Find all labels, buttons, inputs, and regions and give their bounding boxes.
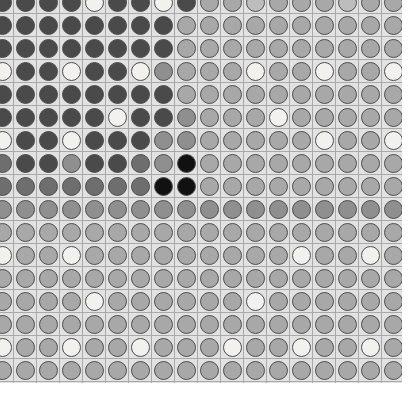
grid-dot <box>223 246 242 265</box>
grid-cell <box>313 14 336 37</box>
grid-cell <box>175 175 198 198</box>
grid-cell <box>244 244 267 267</box>
grid-dot <box>39 292 58 311</box>
grid-dot <box>0 177 12 196</box>
grid-dot <box>269 338 288 357</box>
grid-dot <box>0 361 12 380</box>
grid-cell <box>129 83 152 106</box>
grid-cell <box>60 0 83 14</box>
grid-cell <box>244 0 267 14</box>
grid-cell <box>267 175 290 198</box>
grid-cell <box>221 37 244 60</box>
grid-cell <box>83 198 106 221</box>
grid-dot <box>62 85 81 104</box>
grid-cell <box>37 0 60 14</box>
grid-cell <box>198 60 221 83</box>
grid-cell <box>60 14 83 37</box>
grid-dot <box>0 16 12 35</box>
grid-dot <box>338 246 357 265</box>
grid-dot <box>131 177 150 196</box>
grid-cell <box>359 244 382 267</box>
grid-cell <box>60 336 83 359</box>
grid-cell <box>290 290 313 313</box>
grid-cell <box>267 336 290 359</box>
grid-dot <box>315 315 334 334</box>
grid-dot <box>200 200 219 219</box>
grid-cell <box>267 290 290 313</box>
grid-cell <box>0 267 14 290</box>
grid-dot <box>16 39 35 58</box>
grid-cell <box>382 129 402 152</box>
grid-cell <box>129 106 152 129</box>
grid-dot <box>338 62 357 81</box>
grid-cell <box>14 37 37 60</box>
grid-cell <box>359 175 382 198</box>
grid-cell <box>198 83 221 106</box>
grid-dot <box>39 269 58 288</box>
grid-cell <box>0 83 14 106</box>
grid-cell <box>221 198 244 221</box>
grid-dot <box>16 246 35 265</box>
grid-dot <box>39 108 58 127</box>
grid-cell <box>382 60 402 83</box>
grid-cell <box>37 37 60 60</box>
grid-dot <box>361 85 380 104</box>
grid-cell <box>60 221 83 244</box>
grid-dot <box>223 16 242 35</box>
grid-dot <box>108 177 127 196</box>
grid-dot <box>62 269 81 288</box>
grid-cell <box>359 221 382 244</box>
grid-cell <box>290 336 313 359</box>
grid-dot <box>0 315 12 334</box>
grid-dot <box>269 315 288 334</box>
grid-dot <box>292 177 311 196</box>
grid-cell <box>267 313 290 336</box>
grid-dot <box>62 200 81 219</box>
grid-cell <box>267 359 290 382</box>
grid-dot <box>62 39 81 58</box>
grid-cell <box>290 60 313 83</box>
grid-dot <box>154 200 173 219</box>
grid-cell <box>60 313 83 336</box>
grid-cell <box>198 244 221 267</box>
grid-cell <box>14 221 37 244</box>
grid-cell <box>313 60 336 83</box>
grid-cell <box>175 60 198 83</box>
grid-cell <box>336 83 359 106</box>
grid-cell <box>14 83 37 106</box>
grid-cell <box>0 313 14 336</box>
grid-cell <box>336 37 359 60</box>
grid-dot <box>223 131 242 150</box>
grid-cell <box>198 382 221 383</box>
grid-cell <box>14 14 37 37</box>
grid-dot <box>338 200 357 219</box>
grid-dot <box>361 269 380 288</box>
grid-cell <box>37 152 60 175</box>
grid-cell <box>336 267 359 290</box>
grid-cell <box>244 37 267 60</box>
grid-dot <box>0 108 12 127</box>
grid-dot <box>361 246 380 265</box>
grid-dot <box>292 0 311 12</box>
grid-cell <box>267 37 290 60</box>
grid-cell <box>152 198 175 221</box>
grid-dot <box>269 361 288 380</box>
grid-cell <box>313 129 336 152</box>
grid-dot <box>108 16 127 35</box>
grid-dot <box>292 131 311 150</box>
grid-dot <box>292 108 311 127</box>
grid-dot <box>223 200 242 219</box>
grid-cell <box>152 244 175 267</box>
grid-dot <box>108 108 127 127</box>
grid-cell <box>336 14 359 37</box>
grid-cell <box>313 359 336 382</box>
grid-dot <box>361 62 380 81</box>
grid-dot <box>269 39 288 58</box>
grid-cell <box>14 175 37 198</box>
grid-dot <box>361 177 380 196</box>
grid-cell <box>37 313 60 336</box>
grid-dot <box>315 131 334 150</box>
grid-cell <box>60 382 83 383</box>
grid-cell <box>14 336 37 359</box>
grid-cell <box>382 0 402 14</box>
